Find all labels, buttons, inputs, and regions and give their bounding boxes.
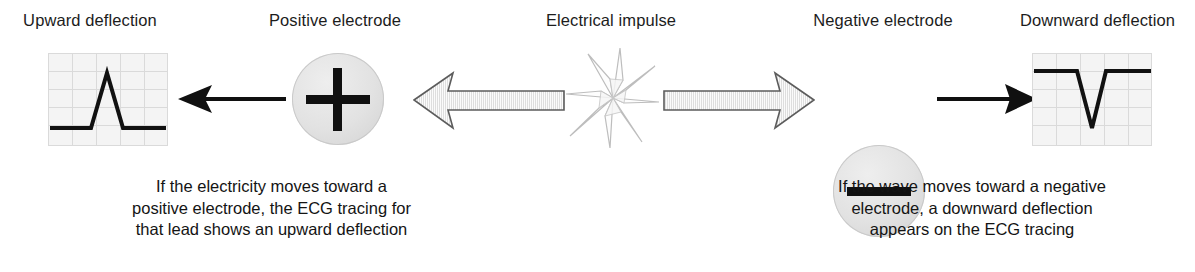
positive-electrode-circle xyxy=(292,53,384,145)
header-label-downward-deflection: Downward deflection xyxy=(1000,10,1195,30)
downward-deflection-tracing xyxy=(1032,53,1152,146)
ecg-deflection-diagram: Upward deflection Positive electrode Ele… xyxy=(0,0,1195,272)
header-label-positive-electrode: Positive electrode xyxy=(240,10,430,30)
right-caption: If the wave moves toward a negative elec… xyxy=(797,176,1147,241)
right-caption-line-3: appears on the ECG tracing xyxy=(797,219,1147,241)
upward-deflection-tracing xyxy=(48,53,168,146)
plus-icon-vertical-bar xyxy=(333,68,342,131)
right-block-arrow-icon xyxy=(663,69,815,131)
right-caption-line-1: If the wave moves toward a negative xyxy=(797,176,1147,198)
header-label-electrical-impulse: Electrical impulse xyxy=(516,10,706,30)
left-caption-line-1: If the electricity moves toward a xyxy=(84,176,459,198)
left-arrow-icon xyxy=(178,80,286,118)
left-block-arrow-icon xyxy=(413,69,565,131)
left-caption-line-2: positive electrode, the ECG tracing for xyxy=(84,198,459,220)
right-arrow-icon xyxy=(937,80,1037,118)
header-label-upward-deflection: Upward deflection xyxy=(0,10,180,30)
left-caption-line-3: that lead shows an upward deflection xyxy=(84,219,459,241)
starburst-icon xyxy=(566,46,660,150)
header-label-negative-electrode: Negative electrode xyxy=(788,10,978,30)
left-caption: If the electricity moves toward a positi… xyxy=(84,176,459,241)
right-caption-line-2: electrode, a downward deflection xyxy=(797,198,1147,220)
